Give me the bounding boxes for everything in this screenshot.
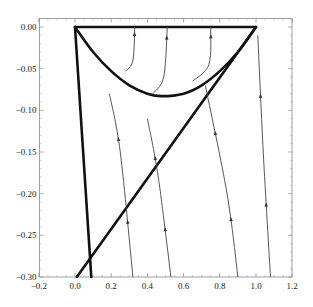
trajectory-1b-line (126, 27, 135, 71)
trajectory-2b-line (153, 27, 167, 94)
direction-arrow-icon (209, 34, 213, 38)
trajectory-3a-line (205, 85, 238, 277)
trajectory-4-line (258, 35, 271, 277)
trajectory-3b-line (193, 27, 211, 81)
y-tick-label: −0.05 (16, 64, 37, 74)
direction-arrow-icon (133, 32, 137, 36)
direction-arrow-icon (259, 94, 263, 98)
y-tick-label: −0.30 (16, 272, 37, 282)
x-tick-label: 0.8 (214, 281, 226, 291)
x-tick-label: 0.0 (69, 281, 81, 291)
direction-arrow-icon (117, 137, 121, 141)
y-tick-label: −0.20 (16, 189, 37, 199)
direction-arrow-icon (214, 131, 218, 135)
trajectory-2a-line (147, 119, 171, 277)
direction-arrow-icon (229, 217, 233, 221)
direction-arrow-icon (165, 36, 169, 40)
x-tick-label: 0.4 (142, 281, 154, 291)
trajectory-1a-line (109, 94, 133, 277)
direction-arrow-icon (265, 203, 269, 207)
x-tick-label: 0.2 (106, 281, 117, 291)
series-group (75, 27, 270, 277)
y-tick-label: 0.00 (21, 22, 37, 32)
x-tick-label: 0.6 (178, 281, 190, 291)
direction-arrow-icon (154, 156, 158, 160)
y-tick-label: −0.25 (16, 230, 37, 240)
steep-boundary-line (75, 27, 91, 277)
y-tick-label: −0.10 (16, 105, 37, 115)
x-tick-label: 1.0 (250, 281, 262, 291)
x-tick-label: −0.2 (31, 281, 47, 291)
y-tick-label: −0.15 (16, 147, 37, 157)
phase-portrait-chart: −0.20.00.20.40.60.81.01.2 0.00−0.05−0.10… (0, 0, 313, 307)
x-tick-label: 1.2 (287, 281, 298, 291)
